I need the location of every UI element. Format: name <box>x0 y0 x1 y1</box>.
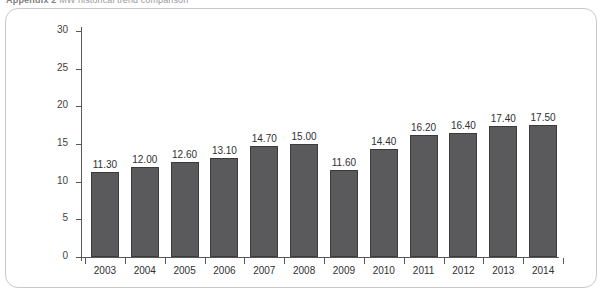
y-tick-25: 25 <box>76 69 81 70</box>
y-tick-15: 15 <box>76 144 81 145</box>
x-tick-boundary-0 <box>85 258 86 264</box>
x-tick-boundary-5 <box>284 258 285 264</box>
y-tick-label-15: 15 <box>57 137 68 148</box>
bar-2007: 14.70 <box>250 146 278 257</box>
x-tick-boundary-10 <box>483 258 484 264</box>
x-tick-boundary-7 <box>364 258 365 264</box>
x-tick-label-2003: 2003 <box>94 265 116 276</box>
y-tick-label-0: 0 <box>62 250 68 261</box>
x-tick-label-2010: 2010 <box>373 265 395 276</box>
bar-2009: 11.60 <box>330 170 358 257</box>
x-tick-boundary-6 <box>324 258 325 264</box>
bar-value-label-2008: 15.00 <box>292 131 317 142</box>
x-tick-label-2005: 2005 <box>173 265 195 276</box>
y-tick-5: 5 <box>76 219 81 220</box>
x-tick-boundary-1 <box>125 258 126 264</box>
y-tick-30: 30 <box>76 31 81 32</box>
bar-value-label-2006: 13.10 <box>212 145 237 156</box>
bar-value-label-2014: 17.50 <box>531 112 556 123</box>
y-axis-line <box>81 27 82 261</box>
x-tick-label-2008: 2008 <box>293 265 315 276</box>
y-tick-label-10: 10 <box>57 175 68 186</box>
page-caption-strip: Appendix 2 MW historical trend compariso… <box>0 0 609 6</box>
bar-2013: 17.40 <box>489 126 517 257</box>
plot-area: 302520151050 11.3012.0012.6013.1014.7015… <box>81 31 559 257</box>
x-tick-boundary-3 <box>205 258 206 264</box>
y-tick-label-20: 20 <box>57 99 68 110</box>
bar-value-label-2009: 11.60 <box>332 157 356 168</box>
x-tick-boundary-8 <box>404 258 405 264</box>
bar-2011: 16.20 <box>410 135 438 257</box>
x-tick-label-2014: 2014 <box>532 265 554 276</box>
bar-2012: 16.40 <box>449 133 477 257</box>
y-tick-0: 0 <box>76 257 81 258</box>
bar-value-label-2003: 11.30 <box>93 159 117 170</box>
x-tick-label-2004: 2004 <box>134 265 156 276</box>
bar-value-label-2007: 14.70 <box>252 133 277 144</box>
x-tick-boundary-2 <box>165 258 166 264</box>
bar-2014: 17.50 <box>529 125 557 257</box>
x-axis-line <box>78 257 559 258</box>
caption-label: Appendix 2 <box>6 0 57 5</box>
bar-2010: 14.40 <box>370 149 398 257</box>
y-tick-label-5: 5 <box>62 212 68 223</box>
bar-2003: 11.30 <box>91 172 119 257</box>
bar-value-label-2005: 12.60 <box>172 149 197 160</box>
x-tick-label-2006: 2006 <box>213 265 235 276</box>
y-tick-20: 20 <box>76 106 81 107</box>
x-tick-boundary-12 <box>563 258 564 264</box>
x-tick-boundary-11 <box>523 258 524 264</box>
x-tick-label-2011: 2011 <box>413 265 435 276</box>
bar-chart: 302520151050 11.3012.0012.6013.1014.7015… <box>6 9 598 289</box>
x-tick-label-2009: 2009 <box>333 265 355 276</box>
x-tick-boundary-9 <box>444 258 445 264</box>
bar-2005: 12.60 <box>171 162 199 257</box>
x-tick-label-2013: 2013 <box>492 265 514 276</box>
y-tick-label-25: 25 <box>57 62 68 73</box>
bar-value-label-2010: 14.40 <box>371 136 396 147</box>
y-tick-10: 10 <box>76 182 81 183</box>
bar-value-label-2013: 17.40 <box>491 113 516 124</box>
bar-value-label-2004: 12.00 <box>132 154 157 165</box>
bar-value-label-2012: 16.40 <box>451 120 476 131</box>
x-tick-label-2012: 2012 <box>452 265 474 276</box>
y-tick-label-30: 30 <box>57 24 68 35</box>
bar-2006: 13.10 <box>210 158 238 257</box>
figure-frame: 302520151050 11.3012.0012.6013.1014.7015… <box>5 8 597 288</box>
x-tick-boundary-4 <box>244 258 245 264</box>
x-tick-label-2007: 2007 <box>253 265 275 276</box>
page-caption: Appendix 2 MW historical trend compariso… <box>6 0 188 5</box>
bar-2008: 15.00 <box>290 144 318 257</box>
caption-rest: MW historical trend comparison <box>59 0 188 5</box>
bar-value-label-2011: 16.20 <box>411 122 436 133</box>
bar-2004: 12.00 <box>131 167 159 257</box>
